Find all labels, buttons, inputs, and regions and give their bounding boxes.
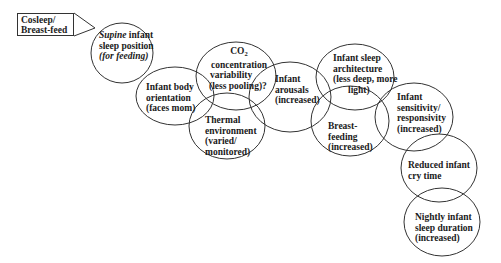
node-arousals-line1: Infant <box>275 74 320 85</box>
node-cry-line1: Reduced infant <box>408 160 470 171</box>
node-arch-line1: Infant sleep <box>333 53 397 64</box>
node-arousals-line2: arousals <box>275 85 320 96</box>
node-sensitivity: Infant sensitivity/ responsivity (increa… <box>397 92 446 134</box>
node-supine: Supine infant sleep position (for feedin… <box>99 30 154 62</box>
node-arch-line2: architecture <box>333 64 397 75</box>
callout-pointer <box>74 13 95 36</box>
node-co2-line3: variability <box>209 70 269 81</box>
node-cry-line2: cry time <box>408 171 470 182</box>
node-supine-line2: sleep position <box>99 41 154 52</box>
node-arousals-line3: (increased) <box>275 95 320 106</box>
node-arch-line3: (less deep, more <box>333 74 397 85</box>
node-co2-main: CO <box>230 46 244 56</box>
callout-line-1: Cosleep/ <box>21 15 73 25</box>
node-dur-line2: sleep duration <box>415 223 473 234</box>
node-co2-line2: concentration <box>209 60 269 71</box>
node-sens-line1: Infant <box>397 92 446 103</box>
node-body-line3: (faces mom) <box>146 103 195 114</box>
node-supine-line3: (for feeding) <box>99 51 154 62</box>
node-co2-sub: 2 <box>245 50 248 57</box>
node-supine-italic: Supine <box>99 30 126 40</box>
node-thermal-line3: (varied/ <box>205 136 257 147</box>
node-body-line2: orientation <box>146 93 195 104</box>
node-arch-line4: light) <box>333 85 397 96</box>
node-thermal: Thermal environment (varied/ monitored) <box>205 115 257 157</box>
node-dur-line1: Nightly infant <box>415 212 473 223</box>
node-sleep-duration: Nightly infant sleep duration (increased… <box>415 212 473 244</box>
node-dur-line3: (increased) <box>415 233 473 244</box>
callout-box: Cosleep/ Breast-feed <box>17 13 74 36</box>
node-co2-line4: (less pooling)? <box>209 81 269 92</box>
node-bf-line3: (increased) <box>328 142 373 153</box>
node-bf-line1: Breast- <box>328 121 373 132</box>
node-sens-line4: (increased) <box>397 124 446 135</box>
node-arousals: Infant arousals (increased) <box>275 74 320 106</box>
node-sleep-architecture: Infant sleep architecture (less deep, mo… <box>333 53 397 95</box>
node-breast-feeding: Breast- feeding (increased) <box>328 121 373 153</box>
node-body-orientation: Infant body orientation (faces mom) <box>146 82 195 114</box>
node-thermal-line1: Thermal <box>205 115 257 126</box>
node-sens-line2: sensitivity/ <box>397 103 446 114</box>
node-supine-line1: infant <box>126 30 153 40</box>
node-co2: CO2 concentration variability (less pool… <box>209 46 269 91</box>
node-thermal-line4: monitored) <box>205 147 257 158</box>
node-sens-line3: responsivity <box>397 113 446 124</box>
node-bf-line2: feeding <box>328 132 373 143</box>
node-cry-time: Reduced infant cry time <box>408 160 470 181</box>
node-body-line1: Infant body <box>146 82 195 93</box>
node-thermal-line2: environment <box>205 126 257 137</box>
callout-line-2: Breast-feed <box>21 25 73 35</box>
